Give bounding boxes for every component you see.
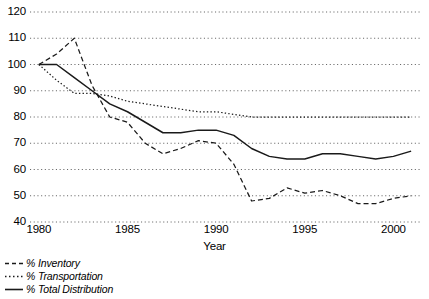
y-tick-label: 90 bbox=[14, 85, 26, 97]
x-tick-label: 1995 bbox=[292, 224, 317, 236]
plot-area bbox=[30, 12, 420, 222]
legend-swatch-dashed-icon bbox=[4, 258, 24, 268]
legend-item: % Transportation bbox=[4, 269, 224, 282]
legend-item: % Inventory bbox=[4, 256, 224, 269]
x-axis: 19801985199019952000 bbox=[30, 224, 420, 240]
y-tick-label: 110 bbox=[8, 33, 26, 45]
y-tick-label: 120 bbox=[7, 6, 26, 18]
y-axis: 405060708090100110120 bbox=[0, 12, 28, 222]
legend-label: % Transportation bbox=[26, 270, 103, 282]
y-tick-label: 70 bbox=[14, 138, 26, 150]
y-tick-label: 80 bbox=[14, 111, 26, 123]
legend-swatch-dotted-icon bbox=[4, 271, 24, 281]
x-tick-label: 1985 bbox=[115, 224, 140, 236]
series-line-solid bbox=[39, 65, 411, 160]
legend-item: % Total Distribution bbox=[4, 282, 224, 295]
y-tick-label: 60 bbox=[14, 164, 26, 176]
x-tick-label: 1990 bbox=[204, 224, 229, 236]
legend-swatch-solid-icon bbox=[4, 284, 24, 294]
x-tick-label: 2000 bbox=[381, 224, 406, 236]
series-lines bbox=[30, 12, 420, 222]
chart-legend: % Inventory% Transportation% Total Distr… bbox=[4, 256, 224, 295]
series-line-dashed bbox=[39, 38, 411, 203]
y-tick-label: 40 bbox=[14, 216, 26, 228]
y-tick-label: 100 bbox=[7, 59, 26, 71]
chart-figure: 405060708090100110120 198019851990199520… bbox=[0, 0, 429, 299]
x-axis-title: Year bbox=[0, 240, 429, 252]
legend-label: % Total Distribution bbox=[26, 283, 113, 295]
x-tick-label: 1980 bbox=[26, 224, 51, 236]
y-tick-label: 50 bbox=[14, 190, 26, 202]
legend-label: % Inventory bbox=[26, 257, 80, 269]
